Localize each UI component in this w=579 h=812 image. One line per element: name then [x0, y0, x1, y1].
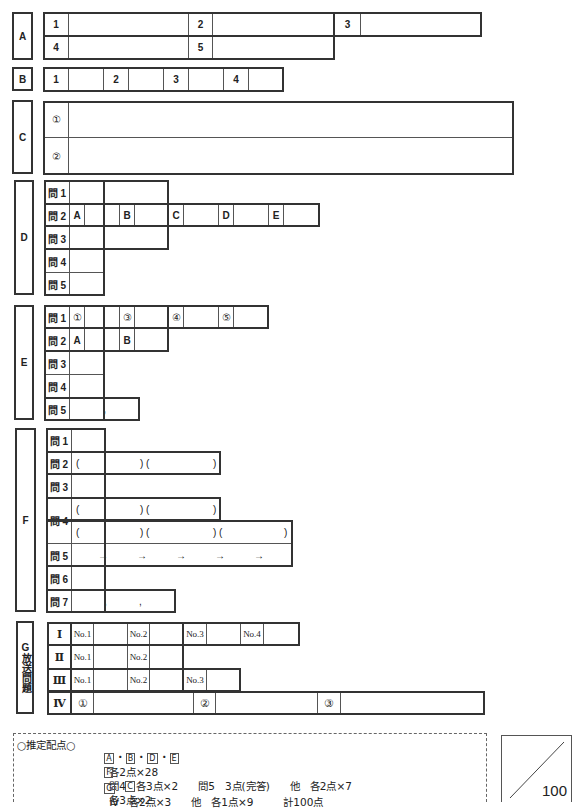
g-row2-label: Ⅱ — [47, 645, 72, 669]
g-row1-label: Ⅰ — [47, 622, 72, 646]
section-box-g: G — [104, 783, 114, 794]
e-q1-answer-4[interactable] — [183, 305, 219, 329]
g-r1-answer-1[interactable] — [93, 622, 128, 646]
e-q5-label: 問 5 — [44, 397, 70, 421]
g-r4-answer-3[interactable] — [340, 691, 485, 715]
f-q5-arrow-3: → — [176, 550, 186, 561]
section-e-label: E — [14, 305, 34, 420]
f-q7-label: 問 7 — [46, 589, 72, 613]
g-r1-no4: No.4 — [240, 622, 264, 646]
f-q2-mid: ) ( — [140, 458, 149, 469]
g-r1-no2: No.2 — [127, 622, 150, 646]
f-q4-answer-row2[interactable]: ( ) ( ) ( ) — [71, 520, 293, 544]
max-score: 100 — [542, 782, 567, 799]
b-answer-1[interactable] — [68, 67, 104, 91]
f-q1-answer[interactable] — [71, 428, 105, 452]
total-score-box[interactable]: 100 — [501, 735, 572, 802]
section-b-label: B — [12, 67, 33, 91]
e-q2-part-b: B — [119, 328, 135, 352]
g-r2-no2: No.2 — [127, 645, 150, 669]
e-q1-part-1: ① — [69, 305, 85, 329]
e-q5-answer[interactable]: , — [69, 397, 140, 421]
a-answer-2[interactable] — [212, 12, 335, 36]
d-q3-answer[interactable] — [69, 226, 169, 250]
d-q2-answer-e[interactable] — [283, 203, 320, 227]
d-q5-answer[interactable] — [69, 272, 105, 296]
a-num-5: 5 — [188, 35, 213, 60]
d-q1-label: 問 1 — [44, 180, 70, 204]
g-r3-answer-3[interactable] — [206, 668, 241, 692]
d-q4-answer[interactable] — [69, 249, 105, 273]
b-num-1: 1 — [43, 67, 69, 91]
f-q2-answer[interactable]: ( ) ( ) — [71, 451, 221, 475]
a-num-3: 3 — [334, 12, 361, 36]
f-q5-label: 問 5 — [46, 543, 72, 567]
f-q6-label: 問 6 — [46, 566, 72, 590]
f-q4-r1-mid: ) ( — [140, 504, 149, 515]
a-answer-3[interactable] — [360, 12, 481, 36]
d-q2-answer-c[interactable] — [183, 203, 219, 227]
c-num-2: ② — [43, 137, 69, 175]
section-d-label: D — [14, 180, 34, 295]
scoring-notes: ○推定配点○ A・B・D・E 各2点×28 C 各3点×2 F 問4 各3点×2… — [13, 733, 487, 802]
f-q4-r1-close: ) — [213, 504, 216, 515]
e-q1-answer-1[interactable] — [84, 305, 120, 329]
g-r4-part-1: ① — [71, 691, 94, 715]
f-q3-label: 問 3 — [46, 474, 72, 498]
g-r2-answer-1[interactable] — [93, 645, 128, 669]
a-num-2: 2 — [188, 12, 213, 36]
g-r3-answer-2[interactable] — [149, 668, 184, 692]
b-num-2: 2 — [103, 67, 129, 91]
line3-points: Ⅳ 各2点×3 他 各1点×9 計100点 — [109, 796, 323, 808]
e-q3-answer[interactable] — [69, 351, 105, 375]
f-q7-comma-1: , — [104, 596, 107, 607]
e-q2-label: 問 2 — [44, 328, 70, 352]
d-q2-answer-b[interactable] — [134, 203, 169, 227]
g-r2-no1: No.1 — [71, 645, 94, 669]
e-q4-answer[interactable] — [69, 374, 105, 398]
f-q5-arrow-5: → — [254, 550, 264, 561]
section-g-label: G放送問題 — [16, 621, 34, 714]
f-q4-answer-row1[interactable]: ( ) ( ) — [71, 497, 221, 521]
f-q7-answer[interactable]: , , — [71, 589, 176, 613]
f-q3-answer[interactable] — [71, 474, 105, 498]
f-q4-r2-open: ( — [76, 527, 79, 538]
e-q1-answer-5[interactable] — [233, 305, 269, 329]
f-q4-r1-open: ( — [76, 504, 79, 515]
section-b-label-text: B — [19, 74, 26, 85]
f-q5-answer[interactable]: → → → → → — [71, 543, 293, 567]
g-r1-answer-4[interactable] — [263, 622, 300, 646]
e-q1-answer-3[interactable] — [134, 305, 169, 329]
b-answer-2[interactable] — [128, 67, 164, 91]
g-r1-answer-3[interactable] — [206, 622, 241, 646]
d-q2-label: 問 2 — [44, 203, 70, 227]
e-q1-part-3: ③ — [119, 305, 135, 329]
d-q1-answer[interactable] — [69, 180, 169, 204]
f-q5-arrow-4: → — [215, 550, 225, 561]
b-answer-4[interactable] — [248, 67, 284, 91]
g-r4-answer-1[interactable] — [93, 691, 194, 715]
d-q2-answer-a[interactable] — [84, 203, 120, 227]
section-c-label-text: C — [19, 132, 26, 143]
section-a-label-text: A — [19, 31, 26, 42]
d-q2-part-e: E — [268, 203, 284, 227]
f-q6-answer[interactable] — [71, 566, 106, 590]
a-answer-4[interactable] — [68, 35, 189, 60]
a-answer-1[interactable] — [68, 12, 189, 36]
f-q7-comma-2: , — [139, 596, 142, 607]
a-answer-5[interactable] — [212, 35, 335, 60]
d-q2-answer-d[interactable] — [233, 203, 269, 227]
f-q5-arrow-2: → — [137, 550, 147, 561]
g-r2-answer-2[interactable] — [149, 645, 184, 669]
e-q4-label: 問 4 — [44, 374, 70, 398]
e-q2-answer-b[interactable] — [134, 328, 169, 352]
c-answer-1[interactable] — [68, 101, 514, 138]
g-r1-answer-2[interactable] — [149, 622, 184, 646]
g-r4-answer-2[interactable] — [215, 691, 318, 715]
g-r3-answer-1[interactable] — [93, 668, 128, 692]
b-answer-3[interactable] — [188, 67, 224, 91]
c-answer-2[interactable] — [68, 137, 514, 175]
scoring-line-3: G Ⅳ 各2点×3 他 各1点×9 計100点 — [90, 769, 323, 812]
e-q2-answer-a[interactable] — [84, 328, 120, 352]
d-q5-label: 問 5 — [44, 272, 70, 296]
